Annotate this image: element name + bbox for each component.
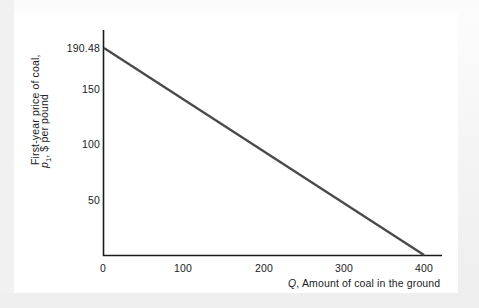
x-tick-label-200: 200 — [244, 262, 284, 274]
y-tick-label-50: 50 — [48, 194, 100, 206]
y-tick-label-150: 150 — [48, 83, 100, 95]
x-axis-title-text: , Amount of coal in the ground — [296, 277, 440, 289]
price-line-series — [104, 48, 424, 255]
x-tick-label-300: 300 — [324, 262, 364, 274]
x-tick-label-0: 0 — [83, 262, 123, 274]
y-axis-title-symbol: p — [38, 162, 50, 168]
figure-root: 190.48 150 100 50 0 100 200 300 400 Q, A… — [0, 0, 479, 308]
y-axis-title-units: , $ per pound — [38, 94, 50, 158]
y-axis-title: First-year price of coal, p1, $ per poun… — [30, 18, 52, 153]
y-tick-label-190: 190.48 — [48, 42, 100, 54]
y-axis-title-line2: p1, $ per pound — [38, 94, 53, 168]
y-tick-label-100: 100 — [48, 138, 100, 150]
x-tick-label-100: 100 — [163, 262, 203, 274]
x-axis-title: Q, Amount of coal in the ground — [288, 277, 440, 289]
y-axis-title-subscript: 1 — [44, 158, 53, 162]
x-tick-label-400: 400 — [404, 262, 444, 274]
